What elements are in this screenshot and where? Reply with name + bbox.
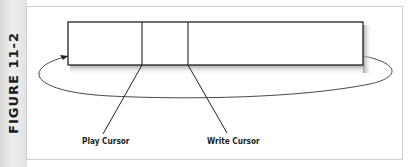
- write-cursor-label: Write Cursor: [207, 136, 260, 146]
- play-cursor-pointer: [103, 65, 142, 134]
- play-cursor-label: Play Cursor: [82, 136, 129, 146]
- buffer-shadow: [70, 65, 365, 75]
- buffer-diagram: [0, 0, 411, 167]
- buffer-shadow-right: [363, 25, 372, 73]
- buffer-box: [68, 22, 363, 65]
- write-cursor-pointer: [188, 65, 227, 133]
